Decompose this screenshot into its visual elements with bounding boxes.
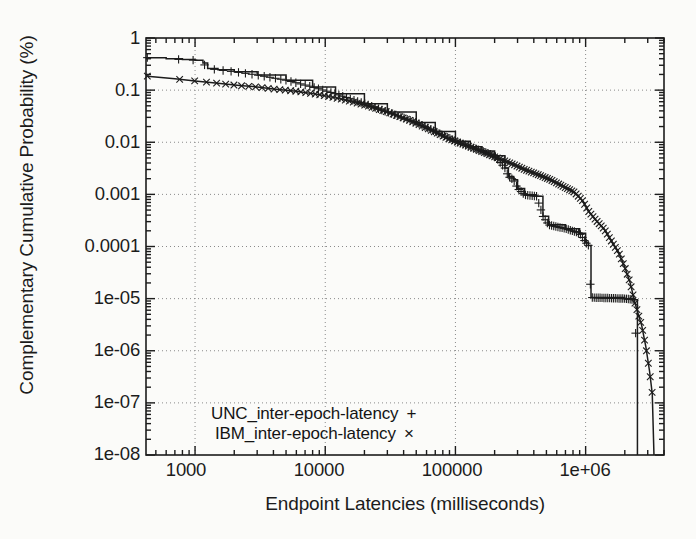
data-series <box>147 76 654 455</box>
chart-figure: Complementary Cumulative Probability (%)… <box>0 0 696 539</box>
plot-canvas <box>0 0 696 539</box>
data-series <box>147 58 637 455</box>
unc-markers <box>143 53 640 337</box>
